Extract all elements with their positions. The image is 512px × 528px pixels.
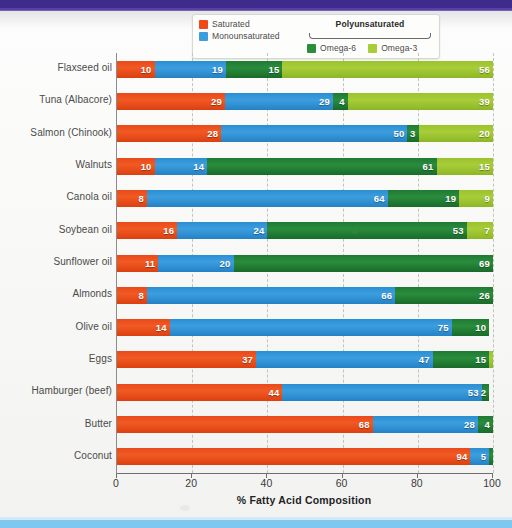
bar-segment-monounsaturated[interactable]: 20	[158, 255, 233, 272]
bar-row[interactable]: 44532	[117, 384, 493, 401]
bar-value-label: 47	[419, 354, 433, 365]
bar-segment-omega-6[interactable]: 53	[267, 222, 466, 239]
bar-row[interactable]: 864199	[117, 190, 493, 207]
bar-value-label: 44	[268, 387, 282, 398]
x-tick-label: 40	[261, 477, 273, 489]
bar-segment-omega-6[interactable]: 4	[478, 416, 493, 433]
bar-segment-saturated[interactable]: 11	[117, 255, 158, 272]
bar-segment-omega-6[interactable]	[489, 448, 493, 465]
bar-segment-saturated[interactable]: 16	[117, 222, 177, 239]
bar-row[interactable]: 86626	[117, 287, 493, 304]
bar-segment-omega-3[interactable]	[489, 351, 493, 368]
bar-value-label: 24	[253, 225, 267, 236]
bar-row[interactable]: 112069	[117, 255, 493, 272]
bar-value-label: 20	[479, 128, 493, 139]
bar-segment-saturated[interactable]: 10	[117, 158, 155, 175]
bar-row[interactable]: 1624537	[117, 222, 493, 239]
chart-area: Flaxseed oilTuna (Albacore)Salmon (Chino…	[0, 48, 512, 518]
bar-segment-omega-6[interactable]: 3	[407, 125, 418, 142]
bar-segment-omega-6[interactable]: 2	[482, 384, 490, 401]
bar-value-label: 15	[268, 64, 282, 75]
bar-segment-omega-3[interactable]: 56	[282, 61, 493, 78]
bar-segment-monounsaturated[interactable]: 53	[282, 384, 481, 401]
bar-segment-saturated[interactable]: 68	[117, 416, 373, 433]
page-background: Saturated Polyunsaturated Monounsaturate…	[0, 0, 512, 528]
bar-value-label: 11	[145, 258, 158, 269]
bar-segment-monounsaturated[interactable]: 5	[470, 448, 489, 465]
y-axis-label: Almonds	[0, 288, 112, 299]
bar-segment-monounsaturated[interactable]: 50	[221, 125, 407, 142]
bar-value-label: 14	[156, 322, 170, 333]
bar-segment-saturated[interactable]: 29	[117, 93, 225, 110]
bar-row[interactable]: 147510	[117, 319, 493, 336]
bar-row[interactable]: 10191556	[117, 61, 493, 78]
bar-segment-saturated[interactable]: 94	[117, 448, 470, 465]
bar-segment-monounsaturated[interactable]: 47	[256, 351, 433, 368]
bar-value-label: 26	[479, 290, 493, 301]
bar-segment-monounsaturated[interactable]: 28	[373, 416, 478, 433]
y-axis-label: Flaxseed oil	[0, 62, 112, 73]
y-axis-label: Olive oil	[0, 321, 112, 332]
bar-row[interactable]: 68284	[117, 416, 493, 433]
bar-row[interactable]: 374715	[117, 351, 493, 368]
bar-segment-saturated[interactable]: 8	[117, 190, 147, 207]
x-tick-label: 60	[336, 477, 348, 489]
bar-value-label: 10	[475, 322, 489, 333]
bar-segment-monounsaturated[interactable]: 24	[177, 222, 267, 239]
bar-segment-monounsaturated[interactable]: 64	[147, 190, 388, 207]
bar-value-label: 14	[193, 161, 207, 172]
bar-segment-omega-6[interactable]: 15	[433, 351, 489, 368]
bar-segment-omega-6[interactable]: 19	[388, 190, 459, 207]
bar-value-label: 4	[339, 96, 347, 107]
bar-segment-omega-3[interactable]: 9	[459, 190, 493, 207]
y-axis-label: Butter	[0, 418, 112, 429]
bar-segment-omega-3[interactable]: 39	[348, 93, 493, 110]
bar-segment-omega-6[interactable]: 61	[207, 158, 436, 175]
bar-segment-monounsaturated[interactable]: 29	[225, 93, 333, 110]
bar-row[interactable]: 2929439	[117, 93, 493, 110]
bar-value-label: 29	[211, 96, 225, 107]
bar-row[interactable]: 2850320	[117, 125, 493, 142]
bar-segment-omega-6[interactable]: 4	[333, 93, 348, 110]
bar-value-label: 10	[141, 161, 155, 172]
bar-segment-saturated[interactable]: 14	[117, 319, 170, 336]
x-axis-title: % Fatty Acid Composition	[116, 494, 492, 506]
bar-value-label: 39	[479, 96, 493, 107]
bar-segment-omega-3[interactable]: 7	[467, 222, 493, 239]
bar-segment-saturated[interactable]: 44	[117, 384, 282, 401]
bar-row[interactable]: 10146115	[117, 158, 493, 175]
legend-label-monounsaturated: Monounsaturated	[212, 31, 280, 41]
y-axis-label: Sunflower oil	[0, 256, 112, 267]
bar-segment-monounsaturated[interactable]: 14	[155, 158, 208, 175]
bar-segment-saturated[interactable]: 28	[117, 125, 221, 142]
bar-segment-omega-6[interactable]: 69	[234, 255, 493, 272]
bar-segment-omega-3[interactable]: 20	[419, 125, 493, 142]
bar-segment-omega-6[interactable]: 26	[395, 287, 493, 304]
bar-segment-monounsaturated[interactable]: 66	[147, 287, 395, 304]
bar-segment-monounsaturated[interactable]: 19	[155, 61, 226, 78]
x-tick-label: 100	[483, 477, 501, 489]
bar-value-label: 75	[438, 322, 452, 333]
bar-value-label: 69	[479, 258, 493, 269]
bar-value-label: 68	[359, 419, 373, 430]
bar-row[interactable]: 945	[117, 448, 493, 465]
bar-segment-omega-6[interactable]: 10	[452, 319, 490, 336]
y-axis-label: Tuna (Albacore)	[0, 94, 112, 105]
bar-value-label: 5	[481, 451, 489, 462]
y-axis-label: Walnuts	[0, 159, 112, 170]
bar-segment-saturated[interactable]: 37	[117, 351, 256, 368]
bar-segment-omega-6[interactable]: 15	[226, 61, 282, 78]
bar-value-label: 94	[456, 451, 470, 462]
bar-segment-monounsaturated[interactable]: 75	[170, 319, 452, 336]
y-axis-label: Soybean oil	[0, 224, 112, 235]
plot-area: 1019155629294392850320101461158641991624…	[116, 53, 493, 474]
bar-segment-saturated[interactable]: 10	[117, 61, 155, 78]
bar-value-label: 56	[479, 64, 493, 75]
bar-value-label: 28	[207, 128, 221, 139]
bar-segment-saturated[interactable]: 8	[117, 287, 147, 304]
bar-value-label: 4	[484, 419, 492, 430]
bar-segment-omega-3[interactable]: 15	[437, 158, 493, 175]
gridline	[493, 53, 494, 473]
bar-value-label: 28	[464, 419, 478, 430]
bar-value-label: 53	[453, 225, 467, 236]
